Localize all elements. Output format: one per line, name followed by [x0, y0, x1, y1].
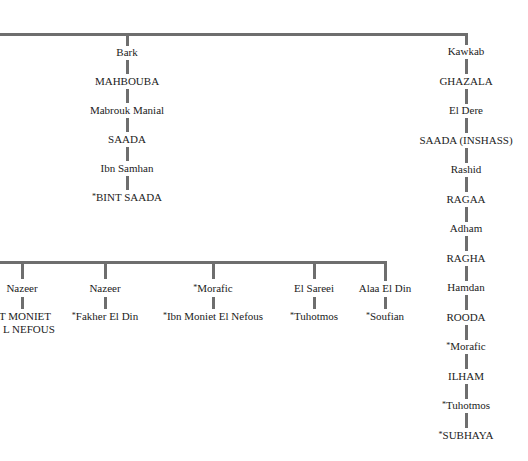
horse-node: El Dere: [449, 104, 483, 117]
star-marker-icon: *: [439, 430, 443, 439]
node-label: RAGHA: [446, 252, 485, 264]
node-label: SAADA: [108, 133, 146, 145]
horse-node: NT MONIETL NEFOUS: [0, 310, 55, 336]
horse-node: ROODA: [446, 311, 485, 324]
horse-node: *Morafic: [193, 282, 232, 295]
star-marker-icon: *: [290, 311, 294, 320]
node-label: El Dere: [449, 104, 483, 116]
node-label: Bark: [116, 46, 137, 58]
star-marker-icon: *: [163, 311, 167, 320]
connector-line: [465, 325, 468, 340]
connector-line: [465, 177, 468, 192]
node-label: Kawkab: [448, 45, 485, 57]
node-label: Hamdan: [447, 281, 484, 293]
horse-node: *Soufian: [366, 310, 404, 323]
node-label: BINT SAADA: [96, 191, 162, 203]
connector-line: [313, 262, 316, 279]
connector-line: [126, 34, 129, 46]
horse-node: Alaa El Din: [359, 282, 412, 295]
horse-node: El Sareei: [294, 282, 334, 295]
connector-line: [465, 413, 468, 428]
horse-node: Nazeer: [6, 282, 37, 295]
connector-line: [126, 60, 129, 74]
connector-line: [313, 297, 316, 309]
node-label: Tuhotmos: [446, 399, 490, 411]
node-label: Mabrouk Manial: [90, 104, 164, 116]
node-label: Nazeer: [89, 282, 120, 294]
horse-node: Rashid: [451, 163, 482, 176]
horse-node: Mabrouk Manial: [90, 104, 164, 117]
connector-line: [212, 297, 215, 309]
horse-node: MAHBOUBA: [95, 75, 159, 88]
horse-node: GHAZALA: [439, 75, 492, 88]
node-label: SUBHAYA: [443, 429, 494, 441]
lower-connector-line: [0, 261, 387, 264]
node-label: ROODA: [446, 311, 485, 323]
star-marker-icon: *: [193, 283, 197, 292]
connector-line: [126, 176, 129, 190]
horse-node: SAADA: [108, 133, 146, 146]
star-marker-icon: *: [446, 341, 450, 350]
star-marker-icon: *: [366, 311, 370, 320]
node-label: El Sareei: [294, 282, 334, 294]
node-label: ILHAM: [448, 370, 484, 382]
horse-node: *BINT SAADA: [92, 191, 162, 204]
node-label: Ibn Samhan: [101, 162, 154, 174]
node-label: Morafic: [450, 340, 485, 352]
horse-node: ILHAM: [448, 370, 484, 383]
horse-node: Kawkab: [448, 45, 485, 58]
connector-line: [465, 148, 468, 163]
connector-line: [465, 354, 468, 369]
horse-node: Hamdan: [447, 281, 484, 294]
horse-node: Ibn Samhan: [101, 162, 154, 175]
node-label-line2: L NEFOUS: [0, 323, 55, 336]
star-marker-icon: *: [72, 311, 76, 320]
horse-node: RAGHA: [446, 252, 485, 265]
connector-line: [465, 384, 468, 399]
connector-line: [465, 59, 468, 74]
node-label: Rashid: [451, 163, 482, 175]
node-label: Adham: [450, 222, 482, 234]
horse-node: RAGAA: [446, 193, 485, 206]
node-label: SAADA (INSHASS): [419, 134, 512, 146]
node-label: Nazeer: [6, 282, 37, 294]
horse-node: Adham: [450, 222, 482, 235]
horse-node: SAADA (INSHASS): [419, 134, 512, 147]
star-marker-icon: *: [92, 192, 96, 201]
horse-node: *Fakher El Din: [72, 310, 138, 323]
connector-line: [126, 118, 129, 132]
connector-line: [104, 297, 107, 309]
connector-line: [465, 118, 468, 133]
horse-node: *Morafic: [446, 340, 485, 353]
node-label: Soufian: [370, 310, 404, 322]
node-label: Fakher El Din: [76, 310, 138, 322]
connector-line: [21, 297, 24, 309]
top-connector-line: [0, 33, 468, 36]
connector-line: [126, 147, 129, 161]
node-label: GHAZALA: [439, 75, 492, 87]
horse-node: *Tuhotmos: [442, 399, 490, 412]
horse-node: *Tuhotmos: [290, 310, 338, 323]
connector-line: [465, 207, 468, 222]
node-label: Alaa El Din: [359, 282, 412, 294]
horse-node: *SUBHAYA: [439, 429, 494, 442]
node-label: MAHBOUBA: [95, 75, 159, 87]
connector-line: [384, 262, 387, 281]
connector-line: [212, 262, 215, 279]
connector-line: [465, 236, 468, 251]
connector-line: [465, 34, 468, 45]
connector-line: [465, 266, 468, 281]
connector-line: [21, 262, 24, 279]
horse-node: *Ibn Moniet El Nefous: [163, 310, 263, 323]
connector-line: [465, 295, 468, 310]
connector-line: [126, 89, 129, 103]
horse-node: Nazeer: [89, 282, 120, 295]
connector-line: [465, 89, 468, 104]
connector-line: [384, 297, 387, 309]
node-label: Tuhotmos: [294, 310, 338, 322]
node-label: Ibn Moniet El Nefous: [167, 310, 263, 322]
connector-line: [104, 262, 107, 279]
node-label: Morafic: [197, 282, 232, 294]
star-marker-icon: *: [442, 400, 446, 409]
node-label: RAGAA: [446, 193, 485, 205]
